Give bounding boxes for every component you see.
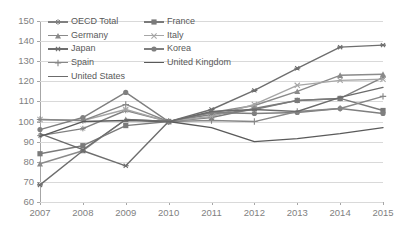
- gridline: [40, 202, 383, 203]
- series-italy: [37, 77, 385, 124]
- legend-key-asterisk-icon: [48, 44, 68, 53]
- y-axis-tick-label: 90: [6, 137, 34, 147]
- data-point-marker: [380, 93, 386, 99]
- x-axis-tick-label: 2009: [115, 208, 136, 218]
- legend-key-marker: [148, 17, 160, 27]
- y-axis-tick-label: 80: [6, 157, 34, 167]
- legend-key-marker: [52, 58, 64, 68]
- legend-item-spain[interactable]: Spain: [48, 56, 144, 70]
- x-axis-tick-label: 2011: [201, 208, 221, 218]
- legend-item-oecd-total[interactable]: OECD Total: [48, 15, 144, 29]
- data-point-marker: [55, 60, 61, 66]
- data-point-marker: [380, 43, 386, 47]
- legend-label: France: [167, 17, 195, 26]
- data-point-marker: [55, 47, 61, 51]
- y-axis-tick-label: 100: [6, 117, 34, 127]
- legend-label: OECD Total: [71, 17, 118, 26]
- data-point-marker: [295, 98, 300, 103]
- legend-key-plus-icon: [48, 58, 68, 67]
- x-axis-tick-label: 2012: [244, 208, 265, 218]
- data-point-marker: [294, 66, 300, 70]
- legend-key-marker: [148, 44, 160, 54]
- x-axis-tick-label: 2007: [29, 208, 50, 218]
- data-point-marker: [337, 105, 343, 111]
- y-axis-tick-label: 60: [6, 197, 34, 207]
- legend-key-line: [48, 76, 68, 77]
- legend-key-marker: [52, 17, 64, 27]
- legend-label: United States: [71, 72, 125, 81]
- y-axis-tick-label: 120: [6, 76, 34, 86]
- y-axis-tick-label: 140: [6, 36, 34, 46]
- data-point-marker: [337, 45, 343, 49]
- x-axis-tick-label: 2015: [372, 208, 393, 218]
- x-axis-tick-mark: [383, 202, 384, 205]
- legend-label: United Kingdom: [167, 58, 231, 67]
- x-axis-tick-label: 2014: [330, 208, 351, 218]
- series-line: [40, 98, 383, 153]
- data-point-marker: [151, 33, 156, 38]
- data-point-marker: [37, 127, 42, 132]
- legend-key-x-icon: [144, 31, 164, 40]
- legend-key-square-icon: [144, 17, 164, 26]
- chart-legend: OECD TotalFranceGermanyItalyJapanKoreaSp…: [48, 15, 244, 83]
- data-point-marker: [55, 19, 61, 25]
- data-point-marker: [251, 118, 257, 124]
- x-axis-tick-label: 2008: [72, 208, 93, 218]
- legend-item-united-states[interactable]: United States: [48, 69, 244, 83]
- data-point-marker: [37, 151, 42, 156]
- series-oecd-total: [37, 75, 386, 139]
- series-line: [40, 77, 383, 135]
- legend-key-none-icon: [48, 72, 68, 81]
- y-axis-tick-label: 70: [6, 177, 34, 187]
- legend-item-france[interactable]: France: [144, 15, 244, 29]
- data-point-marker: [123, 123, 128, 128]
- data-point-marker: [123, 164, 129, 168]
- legend-key-circle-icon: [144, 44, 164, 53]
- legend-label: Japan: [71, 44, 96, 53]
- data-point-marker: [80, 143, 85, 148]
- legend-key-marker: [52, 44, 64, 54]
- data-point-marker: [123, 90, 128, 95]
- data-point-marker: [151, 20, 156, 25]
- data-point-marker: [55, 33, 61, 39]
- legend-key-marker: [52, 31, 64, 41]
- legend-key-star-icon: [48, 17, 68, 26]
- y-axis-tick-label: 150: [6, 16, 34, 26]
- legend-key-none-icon: [144, 58, 164, 67]
- y-axis-tick-label: 110: [6, 96, 34, 106]
- line-chart: 60708090100110120130140150 2007200820092…: [0, 0, 395, 237]
- legend-key-marker: [148, 31, 160, 41]
- legend-item-germany[interactable]: Germany: [48, 29, 144, 43]
- data-point-marker: [251, 88, 257, 92]
- y-axis-tick-label: 130: [6, 56, 34, 66]
- data-point-marker: [37, 183, 43, 187]
- x-axis-tick-label: 2013: [287, 208, 308, 218]
- legend-key-triangle-icon: [48, 31, 68, 40]
- data-point-marker: [151, 47, 156, 52]
- data-point-marker: [252, 111, 257, 116]
- legend-label: Korea: [167, 44, 191, 53]
- x-axis-tick-label: 2010: [158, 208, 179, 218]
- legend-item-korea[interactable]: Korea: [144, 42, 244, 56]
- data-point-marker: [80, 126, 86, 132]
- legend-item-united-kingdom[interactable]: United Kingdom: [144, 56, 244, 70]
- legend-label: Italy: [167, 31, 184, 40]
- legend-label: Spain: [71, 58, 94, 67]
- legend-key-line: [144, 62, 164, 63]
- legend-label: Germany: [71, 31, 108, 40]
- legend-item-japan[interactable]: Japan: [48, 42, 144, 56]
- legend-item-italy[interactable]: Italy: [144, 29, 244, 43]
- data-point-marker: [380, 111, 385, 116]
